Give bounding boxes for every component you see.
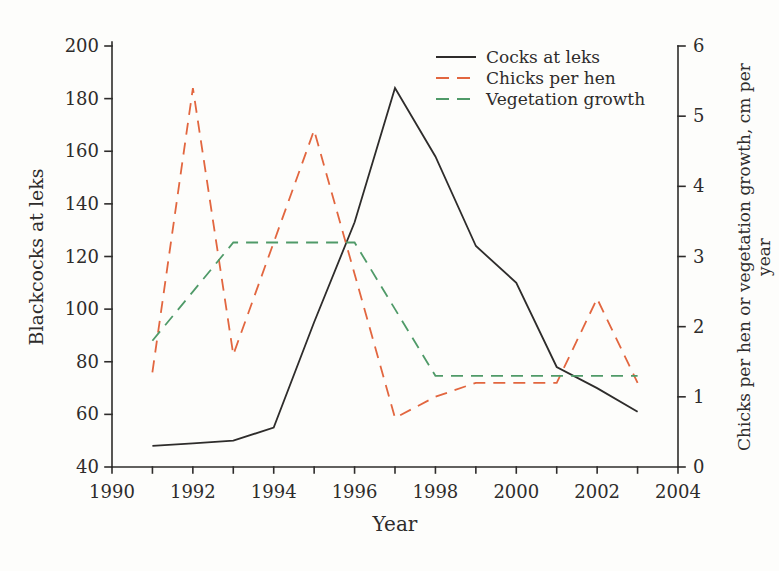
x-axis-tick-label: 1994 — [251, 481, 297, 502]
left-axis-tick-label: 100 — [65, 298, 99, 319]
legend-item-vegetation-growth: Vegetation growth — [436, 88, 645, 109]
x-axis-tick-label: 2004 — [655, 481, 701, 502]
left-axis-tick-label: 80 — [76, 351, 99, 372]
series-line-cocks-at-leks — [152, 88, 637, 446]
left-axis-tick-label: 60 — [76, 403, 99, 424]
right-axis-tick-label: 2 — [693, 316, 704, 337]
left-axis-tick-label: 180 — [65, 88, 99, 109]
legend-label: Vegetation growth — [486, 89, 645, 109]
legend-line-sample-dashed-green — [436, 98, 476, 100]
x-axis-title: Year — [245, 512, 545, 536]
chart-figure: 4060801001201401601802000123456199019921… — [0, 0, 779, 571]
x-axis-tick-label: 1998 — [413, 481, 459, 502]
x-axis-tick-label: 2000 — [493, 481, 539, 502]
legend-label: Cocks at leks — [486, 47, 600, 67]
right-axis-tick-label: 3 — [693, 246, 704, 267]
series-line-chicks-per-hen — [152, 88, 637, 418]
left-axis-tick-label: 40 — [76, 456, 99, 477]
x-axis-tick-label: 1996 — [332, 481, 378, 502]
right-axis-tick-label: 6 — [693, 35, 704, 56]
chart-plot-area: 4060801001201401601802000123456199019921… — [0, 0, 779, 571]
right-axis-tick-label: 1 — [693, 386, 704, 407]
legend-label: Chicks per hen — [486, 68, 616, 88]
legend-line-sample-dashed-orange — [436, 77, 476, 79]
legend-item-cocks-at-leks: Cocks at leks — [436, 46, 645, 67]
legend: Cocks at leks Chicks per hen Vegetation … — [436, 46, 645, 109]
x-axis-tick-label: 1990 — [89, 481, 135, 502]
series-line-vegetation-growth — [152, 243, 637, 376]
right-y-axis-title: Chicks per hen or vegetation growth, cm … — [734, 42, 758, 472]
right-axis-tick-label: 4 — [693, 175, 704, 196]
right-axis-tick-label: 0 — [693, 456, 704, 477]
left-axis-tick-label: 200 — [65, 35, 99, 56]
x-axis-tick-label: 1992 — [170, 481, 216, 502]
x-axis-tick-label: 2002 — [574, 481, 620, 502]
right-axis-tick-label: 5 — [693, 105, 704, 126]
left-y-axis-title: Blackcocks at leks — [25, 137, 49, 377]
left-axis-tick-label: 160 — [65, 140, 99, 161]
legend-item-chicks-per-hen: Chicks per hen — [436, 67, 645, 88]
left-axis-tick-label: 140 — [65, 193, 99, 214]
legend-line-sample-solid — [436, 56, 476, 58]
left-axis-tick-label: 120 — [65, 246, 99, 267]
